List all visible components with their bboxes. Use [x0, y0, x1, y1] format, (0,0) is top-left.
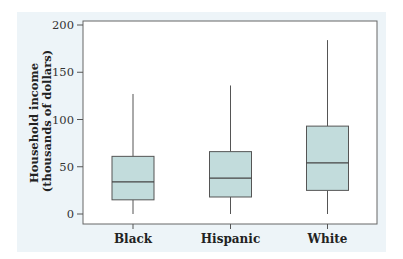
iqr-box	[307, 126, 349, 190]
y-axis: 050100150200	[52, 18, 83, 221]
y-tick-label: 50	[59, 160, 74, 174]
y-tick-label: 200	[52, 18, 74, 32]
x-axis: BlackHispanicWhite	[114, 224, 348, 246]
y-tick-label: 100	[52, 113, 74, 127]
iqr-box	[112, 156, 154, 199]
x-tick-label: Black	[114, 232, 153, 246]
x-tick-label: White	[307, 232, 348, 246]
box-plot: 050100150200 BlackHispanicWhite Househol…	[0, 0, 403, 259]
y-tick-label: 150	[52, 65, 74, 79]
y-tick-label: 0	[67, 207, 74, 221]
y-axis-title: Household income (thousands of dollars)	[27, 50, 54, 192]
y-axis-title-line2: (thousands of dollars)	[40, 50, 54, 192]
x-tick-label: Hispanic	[201, 232, 260, 246]
y-axis-title-line1: Household income	[27, 63, 41, 183]
iqr-box	[210, 152, 252, 197]
